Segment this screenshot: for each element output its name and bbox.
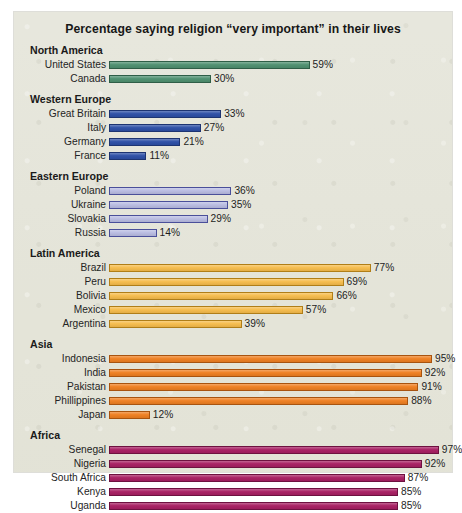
- bar-value-label: 85%: [398, 485, 421, 499]
- bar-category-label: Ukraine: [14, 198, 106, 212]
- bar-row: Germany21%: [14, 135, 452, 149]
- bar-value-label: 95%: [432, 352, 455, 366]
- bar-track: 92%: [109, 457, 448, 471]
- bar-row: Peru69%: [14, 275, 452, 289]
- bar-row: Pakistan91%: [14, 380, 452, 394]
- bar-value-label: 77%: [371, 261, 394, 275]
- bar-value-label: 87%: [405, 471, 428, 485]
- chart-title: Percentage saying religion “very importa…: [14, 22, 452, 36]
- bar: [109, 446, 439, 454]
- bar: [109, 460, 422, 468]
- bar-value-label: 69%: [344, 275, 367, 289]
- bar-value-label: 85%: [398, 499, 421, 513]
- bar-track: 36%: [109, 184, 448, 198]
- bar: [109, 502, 398, 510]
- bar-value-label: 35%: [228, 198, 251, 212]
- bar-row: Phillippines88%: [14, 394, 452, 408]
- bar-group-africa: AfricaSenegal97%Nigeria92%South Africa87…: [14, 428, 452, 513]
- group-header: Eastern Europe: [14, 169, 452, 184]
- bar-row: Poland36%: [14, 184, 452, 198]
- bar-track: 87%: [109, 471, 448, 485]
- bar: [109, 124, 201, 132]
- bar-track: 88%: [109, 394, 448, 408]
- bar-category-label: Senegal: [14, 443, 106, 457]
- bar: [109, 292, 333, 300]
- bar-track: 59%: [109, 58, 448, 72]
- bar-category-label: Mexico: [14, 303, 106, 317]
- bar-track: 85%: [109, 499, 448, 513]
- bar-value-label: 30%: [211, 72, 234, 86]
- bar-group-western-europe: Western EuropeGreat Britain33%Italy27%Ge…: [14, 92, 452, 163]
- bar-row: Russia14%: [14, 226, 452, 240]
- bar-track: 57%: [109, 303, 448, 317]
- bar-group-north-america: North AmericaUnited States59%Canada30%: [14, 43, 452, 86]
- bar-value-label: 29%: [208, 212, 231, 226]
- bar-value-label: 12%: [150, 408, 173, 422]
- bar-category-label: Bolivia: [14, 289, 106, 303]
- bar-category-label: Canada: [14, 72, 106, 86]
- bar-row: Bolivia66%: [14, 289, 452, 303]
- bar: [109, 383, 418, 391]
- bar-category-label: India: [14, 366, 106, 380]
- bar-row: Uganda85%: [14, 499, 452, 513]
- bar-group-asia: AsiaIndonesia95%India92%Pakistan91%Phill…: [14, 337, 452, 422]
- bar-row: India92%: [14, 366, 452, 380]
- bar-row: Great Britain33%: [14, 107, 452, 121]
- bar-track: 21%: [109, 135, 448, 149]
- bar-track: 27%: [109, 121, 448, 135]
- bar-track: 14%: [109, 226, 448, 240]
- bar: [109, 138, 180, 146]
- bar: [109, 474, 405, 482]
- group-header: Latin America: [14, 246, 452, 261]
- bar-track: 12%: [109, 408, 448, 422]
- group-header: North America: [14, 43, 452, 58]
- bar: [109, 110, 221, 118]
- bar: [109, 264, 371, 272]
- bar-category-label: Poland: [14, 184, 106, 198]
- bar: [109, 75, 211, 83]
- group-header: Asia: [14, 337, 452, 352]
- bar-row: Nigeria92%: [14, 457, 452, 471]
- bar-row: Ukraine35%: [14, 198, 452, 212]
- bar: [109, 320, 242, 328]
- group-header: Africa: [14, 428, 452, 443]
- bar: [109, 229, 157, 237]
- bar-value-label: 11%: [146, 149, 169, 163]
- bar: [109, 411, 150, 419]
- group-header: Western Europe: [14, 92, 452, 107]
- bar-value-label: 39%: [242, 317, 265, 331]
- bar-value-label: 59%: [310, 58, 333, 72]
- bar-track: 97%: [109, 443, 448, 457]
- bar-track: 95%: [109, 352, 448, 366]
- bar-value-label: 27%: [201, 121, 224, 135]
- bar-category-label: Slovakia: [14, 212, 106, 226]
- bar-value-label: 66%: [333, 289, 356, 303]
- bar-category-label: South Africa: [14, 471, 106, 485]
- bar-value-label: 92%: [422, 457, 445, 471]
- bar-row: United States59%: [14, 58, 452, 72]
- bar-row: Indonesia95%: [14, 352, 452, 366]
- bar-track: 29%: [109, 212, 448, 226]
- bar-track: 33%: [109, 107, 448, 121]
- bar: [109, 215, 208, 223]
- bar-group-latin-america: Latin AmericaBrazil77%Peru69%Bolivia66%M…: [14, 246, 452, 331]
- bar-value-label: 92%: [422, 366, 445, 380]
- bar-track: 11%: [109, 149, 448, 163]
- bar-row: Italy27%: [14, 121, 452, 135]
- bar-track: 35%: [109, 198, 448, 212]
- bar-category-label: France: [14, 149, 106, 163]
- bar-value-label: 91%: [418, 380, 441, 394]
- bar-row: Slovakia29%: [14, 212, 452, 226]
- bar-row: Kenya85%: [14, 485, 452, 499]
- bar-track: 39%: [109, 317, 448, 331]
- bar-row: Mexico57%: [14, 303, 452, 317]
- bar-value-label: 88%: [408, 394, 431, 408]
- bar-group-eastern-europe: Eastern EuropePoland36%Ukraine35%Slovaki…: [14, 169, 452, 240]
- bar: [109, 488, 398, 496]
- bar: [109, 187, 231, 195]
- bar-row: Brazil77%: [14, 261, 452, 275]
- bar-category-label: Japan: [14, 408, 106, 422]
- bar-track: 91%: [109, 380, 448, 394]
- bar-track: 66%: [109, 289, 448, 303]
- bar: [109, 61, 310, 69]
